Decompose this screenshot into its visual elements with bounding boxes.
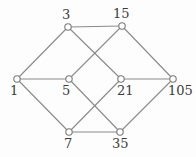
graph-node-label: 35 xyxy=(112,137,129,150)
graph-edge xyxy=(69,26,122,79)
graph-node xyxy=(118,76,124,82)
graph-canvas xyxy=(0,0,196,157)
graph-node xyxy=(14,76,20,82)
hasse-diagram-figure: 1315521105735 xyxy=(0,0,196,157)
graph-node xyxy=(117,129,123,135)
graph-node xyxy=(119,23,125,29)
graph-node xyxy=(65,24,71,30)
graph-edge xyxy=(68,26,122,27)
graph-node-label: 5 xyxy=(62,84,70,97)
graph-node-label: 3 xyxy=(62,8,70,21)
graph-node xyxy=(66,76,72,82)
graph-node xyxy=(66,129,72,135)
graph-node-label: 105 xyxy=(168,84,193,97)
graph-edge xyxy=(122,26,173,79)
graph-edge xyxy=(17,27,68,79)
edge-layer xyxy=(17,26,173,132)
graph-node-label: 21 xyxy=(117,84,134,97)
graph-node-label: 7 xyxy=(64,137,72,150)
graph-node xyxy=(170,76,176,82)
graph-node-label: 15 xyxy=(113,7,130,20)
graph-node-label: 1 xyxy=(10,84,18,97)
